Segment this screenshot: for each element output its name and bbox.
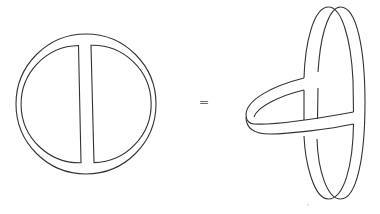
- theta-band-diagram: [0, 0, 380, 214]
- ring-band-figure: [246, 7, 365, 199]
- stray-dot: [307, 204, 309, 206]
- equals-sign: =: [199, 96, 209, 108]
- flat-band-figure: [16, 34, 156, 174]
